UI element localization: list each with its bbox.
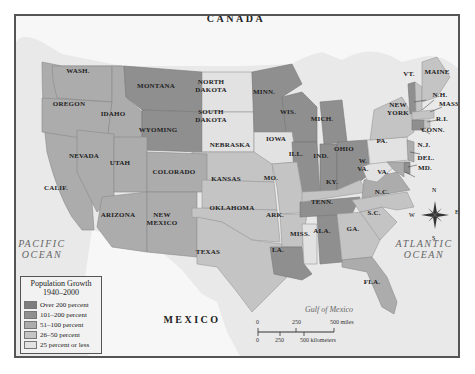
state-ri: R.I. [436,115,448,123]
state-la: LA. [272,246,284,254]
state-new-mexico: NEWMEXICO [147,211,178,227]
legend-item: 25 percent or less [24,340,98,350]
map-legend: Population Growth 1940–2000 Over 200 per… [20,276,102,354]
legend-item: 101–200 percent [24,310,98,320]
state-conn: CONN. [421,126,444,134]
state-arizona: ARIZONA [101,211,135,219]
state-wis: WIS. [280,108,296,116]
state-oklahoma: OKLAHOMA [210,204,255,212]
state-va: VA. [377,168,389,176]
state-nc: N.C. [375,188,389,196]
state-ga: GA. [347,225,360,233]
state-ohio: OHIO [334,145,354,153]
state-ala: ALA. [313,227,330,235]
state-ind: IND. [313,152,328,160]
country-canada: CANADA [207,14,265,24]
state-mo: MO. [264,174,278,182]
legend-swatch [24,321,37,329]
state-ky: KY. [326,178,338,186]
canada-land [16,16,460,72]
state-miss: MISS. [290,230,310,238]
legend-swatch [24,301,37,309]
ocean-pacific: PACIFIC OCEAN [18,238,66,260]
legend-swatch [24,341,37,349]
state-sc: S.C. [367,209,380,217]
scale-bar: 0 250 500 miles 0 250 500 kilometers [256,318,356,348]
state-ark: ARK. [266,211,284,219]
state-texas: TEXAS [196,248,220,256]
legend-item: 51–100 percent [24,320,98,330]
state-utah: UTAH [110,159,131,167]
state-tenn: TENN. [311,198,333,206]
state-south-dakota: SOUTHDAKOTA [195,108,226,124]
state-del: DEL. [418,154,435,162]
legend-title: Population Growth 1940–2000 [24,279,98,297]
state-minn: MINN. [253,88,275,96]
state-pa: PA. [376,137,387,145]
state-vt: VT. [403,70,415,78]
legend-swatch [24,311,37,319]
state-wyoming: WYOMING [139,126,178,134]
state-north-dakota: NORTHDAKOTA [195,78,226,94]
state-idaho: IDAHO [101,110,126,118]
state-montana: MONTANA [137,82,175,90]
state-calif: CALIF. [44,184,68,192]
state-ill: ILL. [289,150,304,158]
state-nj: N.J. [418,141,431,149]
legend-swatch [24,331,37,339]
state-nevada: NEVADA [69,152,99,160]
state-mich: MICH. [311,115,334,123]
legend-item: 26–50 percent [24,330,98,340]
state-iowa: IOWA [266,135,286,143]
state-nh: N.H. [433,91,448,99]
gulf-of-mexico: Gulf of Mexico [305,305,353,314]
state-nebraska: NEBRASKA [210,141,251,149]
state-w-va: W.VA. [357,157,369,173]
state-kansas: KANSAS [211,175,241,183]
state-md: MD. [418,164,432,172]
state-new-york: NEWYORK [387,101,409,117]
state-colorado: COLORADO [153,168,196,176]
state-oregon: OREGON [53,100,85,108]
state-maine: MAINE [424,68,449,76]
state-wash: WASH. [66,67,89,75]
ocean-atlantic: ATLANTIC OCEAN [395,238,452,260]
state-fla: FLA. [364,278,381,286]
state-mass: MASS. [439,100,460,108]
country-mexico: MEXICO [163,314,220,325]
legend-item: Over 200 percent [24,300,98,310]
